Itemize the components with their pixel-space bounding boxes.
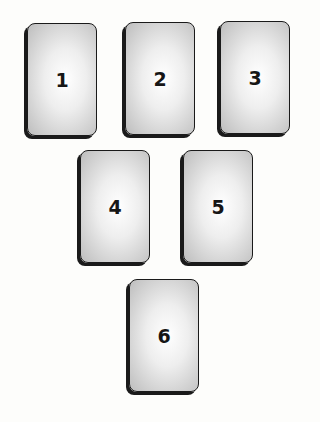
card-3[interactable]: 3 bbox=[220, 21, 290, 134]
card-number: 5 bbox=[211, 196, 224, 218]
card-5[interactable]: 5 bbox=[183, 150, 253, 263]
card-2[interactable]: 2 bbox=[125, 22, 195, 135]
card-number: 4 bbox=[108, 196, 121, 218]
card-1[interactable]: 1 bbox=[27, 23, 97, 136]
card-number: 1 bbox=[55, 69, 68, 91]
card-number: 3 bbox=[248, 67, 261, 89]
card-6[interactable]: 6 bbox=[129, 279, 199, 392]
card-number: 2 bbox=[153, 68, 166, 90]
card-4[interactable]: 4 bbox=[80, 150, 150, 263]
card-number: 6 bbox=[157, 325, 170, 347]
